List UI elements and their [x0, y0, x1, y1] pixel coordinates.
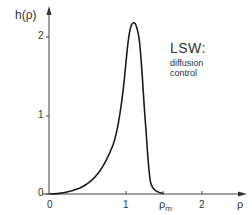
y-tick-label-1: 1: [38, 109, 44, 120]
x-tick-label-0: 0: [47, 199, 53, 210]
x-tick-label-2: 2: [199, 199, 205, 210]
distribution-curve: [50, 23, 163, 194]
x-tick-label-1: 1: [123, 199, 129, 210]
x-tick-label-rho-m: ρm: [159, 198, 172, 213]
rho-m-subscript: m: [165, 204, 172, 213]
x-axis-label: ρ: [237, 198, 243, 210]
annotation-title: LSW:: [170, 40, 206, 56]
y-tick-label-2: 2: [38, 30, 44, 41]
y-axis-label: h(ρ): [15, 8, 37, 22]
annotation-line-1: diffusion: [170, 58, 203, 68]
x-axis-arrow-icon: [238, 192, 247, 197]
y-axis-arrow-icon: [47, 6, 52, 15]
annotation-line-2: control: [170, 68, 197, 78]
y-tick-label-0: 0: [38, 187, 44, 198]
